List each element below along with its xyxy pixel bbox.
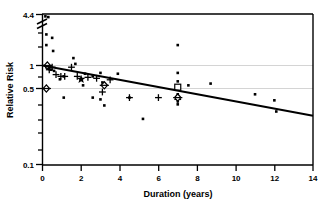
data-point bbox=[72, 57, 75, 60]
data-point bbox=[176, 103, 179, 106]
data-point bbox=[82, 84, 85, 87]
data-point bbox=[44, 15, 47, 18]
scatter-plot-figure: 4.4 1 0.5 0.1 0 2 4 6 8 10 12 14 Duratio… bbox=[0, 0, 333, 215]
xtick-label-0: 0 bbox=[40, 174, 45, 183]
y-axis-title: Relative Risk bbox=[5, 61, 15, 118]
y-axis-ticks bbox=[36, 15, 42, 165]
data-point bbox=[209, 82, 212, 85]
ytick-label-0.5: 0.5 bbox=[23, 85, 35, 94]
xtick-label-2: 2 bbox=[79, 174, 84, 183]
data-point bbox=[176, 44, 179, 47]
data-point bbox=[99, 72, 102, 75]
data-point bbox=[176, 80, 179, 83]
data-point bbox=[176, 72, 179, 75]
ytick-label-0.1: 0.1 bbox=[23, 161, 35, 170]
data-point bbox=[62, 96, 65, 99]
data-point bbox=[74, 63, 77, 66]
data-point bbox=[187, 84, 190, 87]
data-point bbox=[273, 99, 276, 102]
data-point bbox=[51, 37, 54, 40]
data-point bbox=[91, 96, 94, 99]
data-point bbox=[117, 72, 120, 75]
ytick-label-4.4: 4.4 bbox=[23, 11, 35, 20]
data-point bbox=[45, 33, 48, 36]
data-point bbox=[53, 70, 56, 73]
data-point bbox=[103, 104, 106, 107]
plot-canvas: 4.4 1 0.5 0.1 0 2 4 6 8 10 12 14 Duratio… bbox=[0, 0, 333, 215]
xtick-label-6: 6 bbox=[156, 174, 161, 183]
xtick-label-4: 4 bbox=[118, 174, 123, 183]
data-point bbox=[99, 98, 102, 101]
x-axis-ticks bbox=[43, 165, 314, 171]
data-point bbox=[254, 93, 257, 96]
xtick-label-8: 8 bbox=[195, 174, 200, 183]
data-point bbox=[142, 118, 145, 121]
ytick-label-1: 1 bbox=[30, 62, 35, 71]
xtick-label-14: 14 bbox=[309, 174, 318, 183]
data-point bbox=[45, 44, 48, 47]
xtick-label-12: 12 bbox=[270, 174, 279, 183]
data-point bbox=[275, 110, 278, 113]
data-point bbox=[52, 50, 55, 53]
data-point bbox=[47, 16, 50, 19]
xtick-label-10: 10 bbox=[232, 174, 241, 183]
x-axis-title: Duration (years) bbox=[143, 189, 212, 199]
